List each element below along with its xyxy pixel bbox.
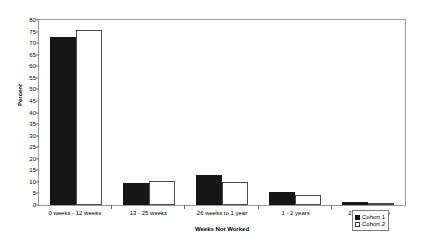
x-axis-tick-labels: 0 weeks - 12 weeks13 - 25 weeks26 weeks … <box>38 210 406 216</box>
bar-3-series-1 <box>295 195 321 205</box>
legend-item-0[interactable]: Cohort 1 <box>355 214 385 220</box>
bar-0-series-0 <box>50 37 76 205</box>
bar-group <box>112 20 185 205</box>
bar-group <box>185 20 258 205</box>
x-axis-tick-label: 1 - 2 years <box>259 210 333 216</box>
x-axis-tick-mark <box>111 205 112 209</box>
chart-legend: Cohort 1Cohort 2 <box>352 210 389 231</box>
bar-1-series-0 <box>123 183 149 205</box>
bar-0-series-1 <box>76 30 102 205</box>
bar-2-series-1 <box>222 182 248 205</box>
legend-item-label: Cohort 2 <box>362 221 385 227</box>
legend-swatch-icon <box>355 222 360 227</box>
bar-group <box>39 20 112 205</box>
y-axis-title: Percent <box>17 65 23 125</box>
x-axis-tick-label: 26 weeks to 1 year <box>185 210 259 216</box>
bar-4-series-0 <box>342 202 368 205</box>
bars-layer <box>39 20 405 205</box>
bar-1-series-1 <box>149 181 175 205</box>
legend-item-label: Cohort 1 <box>362 214 385 220</box>
bar-group <box>259 20 332 205</box>
x-axis-tick-mark <box>331 205 332 209</box>
x-axis-tick-mark <box>184 205 185 209</box>
bar-chart: Percent 05101520253035404550556065707580… <box>0 0 423 249</box>
x-axis-tick-label: 0 weeks - 12 weeks <box>38 210 112 216</box>
x-axis-tick-mark <box>258 205 259 209</box>
plot-area: 05101520253035404550556065707580 <box>38 19 406 206</box>
bar-3-series-0 <box>269 192 295 205</box>
legend-item-1[interactable]: Cohort 2 <box>355 221 385 227</box>
legend-swatch-icon <box>355 215 360 220</box>
bar-4-series-1 <box>368 203 394 205</box>
x-axis-tick-label: 13 - 25 weeks <box>112 210 186 216</box>
bar-2-series-0 <box>196 175 222 205</box>
bar-group <box>332 20 405 205</box>
x-axis-title: Weeks Not Worked <box>38 226 406 232</box>
